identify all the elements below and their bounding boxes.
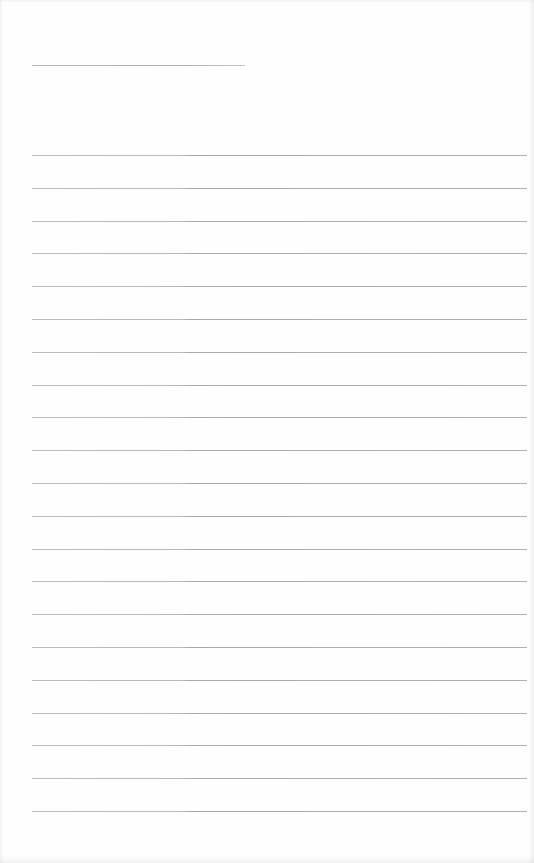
ruled-line — [32, 516, 527, 517]
ruled-line — [32, 745, 527, 746]
ruled-line — [32, 450, 527, 451]
ruled-line — [32, 286, 527, 287]
ruled-line — [32, 188, 527, 189]
ruled-line — [32, 253, 527, 254]
ruled-line — [32, 581, 527, 582]
lined-page — [0, 0, 534, 863]
ruled-line — [32, 155, 527, 156]
ruled-line — [32, 319, 527, 320]
title-rule — [32, 65, 245, 66]
ruled-line — [32, 614, 527, 615]
ruled-line — [32, 713, 527, 714]
ruled-line — [32, 680, 527, 681]
ruled-line — [32, 483, 527, 484]
ruled-line — [32, 221, 527, 222]
ruled-line — [32, 385, 527, 386]
ruled-line — [32, 352, 527, 353]
ruled-line — [32, 417, 527, 418]
ruled-line — [32, 778, 527, 779]
ruled-line — [32, 647, 527, 648]
ruled-line — [32, 549, 527, 550]
ruled-line — [32, 811, 527, 812]
